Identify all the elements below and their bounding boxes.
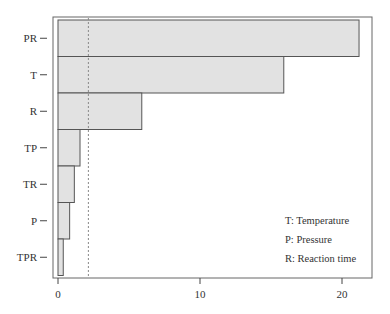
legend: T: TemperatureP: PressureR: Reaction tim… bbox=[285, 215, 356, 264]
x-tick-label: 0 bbox=[55, 288, 61, 300]
y-tick-label: TP bbox=[24, 142, 37, 154]
legend-entry: R: Reaction time bbox=[285, 253, 356, 264]
bar-pr bbox=[58, 20, 359, 57]
pareto-chart: PRTRTPTRPTPR 01020 T: TemperatureP: Pres… bbox=[0, 0, 390, 314]
y-tick-label: PR bbox=[24, 32, 38, 44]
y-axis: PRTRTPTRPTPR bbox=[17, 32, 47, 263]
legend-entry: P: Pressure bbox=[285, 234, 332, 245]
x-tick-label: 20 bbox=[337, 288, 349, 300]
legend-entry: T: Temperature bbox=[285, 215, 349, 226]
y-tick-label: TPR bbox=[17, 251, 38, 263]
bar-p bbox=[58, 203, 70, 240]
bar-r bbox=[58, 93, 142, 130]
y-tick-label: P bbox=[31, 215, 37, 227]
x-axis: 01020 bbox=[55, 278, 348, 300]
bar-t bbox=[58, 57, 284, 94]
x-tick-label: 10 bbox=[195, 288, 207, 300]
y-tick-label: TR bbox=[23, 178, 38, 190]
bar-tpr bbox=[58, 239, 63, 276]
y-tick-label: R bbox=[30, 105, 38, 117]
bar-tr bbox=[58, 166, 74, 203]
bar-tp bbox=[58, 130, 80, 167]
y-tick-label: T bbox=[30, 69, 37, 81]
